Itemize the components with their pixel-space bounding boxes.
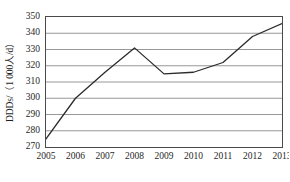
y-tick-label: 340 xyxy=(26,29,40,39)
gridlines-group xyxy=(46,33,282,131)
y-tick-label: 350 xyxy=(26,12,40,22)
x-tick-label: 2010 xyxy=(184,152,203,162)
y-tick-label: 320 xyxy=(26,61,40,71)
data-series-group xyxy=(46,24,282,139)
x-tick-label: 2011 xyxy=(214,152,233,162)
plot-svg xyxy=(46,17,282,147)
x-axis-tick-labels: 200520062007200820092010201120122013 xyxy=(45,152,283,168)
y-tick-label: 290 xyxy=(26,110,40,120)
y-tick-label: 330 xyxy=(26,45,40,55)
y-tick-label: 310 xyxy=(26,77,40,87)
y-tick-label: 300 xyxy=(26,94,40,104)
data-series-line xyxy=(46,24,282,139)
x-tick-label: 2012 xyxy=(243,152,262,162)
x-tick-label: 2009 xyxy=(155,152,174,162)
x-tick-label: 2008 xyxy=(125,152,144,162)
x-tick-label: 2006 xyxy=(66,152,85,162)
x-tick-label: 2005 xyxy=(37,152,56,162)
x-tick-label: 2013 xyxy=(273,152,290,162)
x-tick-label: 2007 xyxy=(96,152,115,162)
line-chart-figure: DDDs/（1 000人/d） 270280290300310320330340… xyxy=(0,0,289,182)
plot-area xyxy=(45,16,283,148)
y-tick-label: 280 xyxy=(26,126,40,136)
y-axis-title-text: DDDs/（1 000人/d） xyxy=(2,38,16,122)
